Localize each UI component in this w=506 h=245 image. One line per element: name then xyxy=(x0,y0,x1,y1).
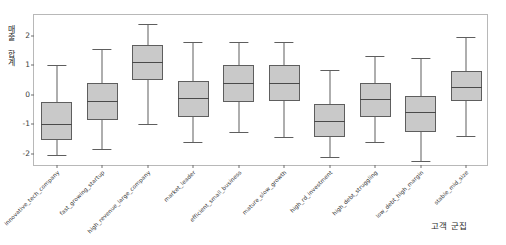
median-line xyxy=(178,98,209,99)
whisker-cap-low xyxy=(320,157,339,158)
whisker-cap-high xyxy=(411,58,430,59)
box-iqr xyxy=(405,96,436,131)
x-tick-label: high_rd_investment xyxy=(289,170,333,214)
median-line xyxy=(132,62,163,63)
whisker-cap-low xyxy=(47,155,66,156)
whisker-cap-high xyxy=(93,49,112,50)
x-tick-label: efficient_small_business xyxy=(189,170,242,223)
whisker-cap-low xyxy=(138,124,157,125)
x-axis-label: 고객 군집 xyxy=(431,219,467,231)
box-iqr xyxy=(178,81,209,116)
median-line xyxy=(87,101,118,102)
y-tick-label: 1 xyxy=(25,61,34,69)
x-tick-mark xyxy=(466,165,467,168)
median-line xyxy=(223,83,254,84)
median-line xyxy=(314,121,345,122)
median-line xyxy=(360,99,391,100)
whisker-cap-low xyxy=(275,137,294,138)
whisker-cap-low xyxy=(411,161,430,162)
boxplot-figure: 매출 합계 210-1-2 innovative_tech_companyfas… xyxy=(0,0,506,245)
x-tick-label: market_leader xyxy=(164,170,197,203)
whisker-cap-high xyxy=(184,42,203,43)
box-iqr xyxy=(451,71,482,101)
whisker-cap-low xyxy=(184,142,203,143)
x-tick-label: stable_mid_size xyxy=(434,170,470,206)
x-tick-mark xyxy=(375,165,376,168)
whisker-cap-low xyxy=(229,132,248,133)
y-tick-label: -1 xyxy=(23,120,34,128)
x-tick-mark xyxy=(147,165,148,168)
x-tick-label: mature_slow_growth xyxy=(242,170,288,216)
median-line xyxy=(269,83,300,84)
whisker-cap-high xyxy=(229,42,248,43)
box-iqr xyxy=(41,102,72,140)
x-tick-label: low_debt_high_margin xyxy=(375,170,425,220)
x-tick-mark xyxy=(56,165,57,168)
whisker-cap-high xyxy=(275,42,294,43)
x-tick-mark xyxy=(238,165,239,168)
x-tick-mark xyxy=(329,165,330,168)
y-axis-label: 매출 합계 xyxy=(3,14,17,76)
whisker-cap-low xyxy=(457,136,476,137)
plot-area: 210-1-2 innovative_tech_companyfast_grow… xyxy=(33,14,488,166)
x-tick-label: high_debt_struggling xyxy=(332,170,379,217)
whisker-cap-low xyxy=(366,142,385,143)
whisker-cap-high xyxy=(47,65,66,66)
whisker-cap-high xyxy=(138,24,157,25)
y-tick-label: 2 xyxy=(25,32,34,40)
whisker-cap-high xyxy=(457,37,476,38)
x-tick-label: innovative_tech_company xyxy=(4,170,61,227)
whisker-cap-high xyxy=(366,56,385,57)
median-line xyxy=(405,112,436,113)
y-tick-label: 0 xyxy=(25,91,34,99)
median-line xyxy=(451,87,482,88)
x-tick-label: fast_growing_startup xyxy=(59,170,106,217)
x-tick-mark xyxy=(193,165,194,168)
whisker-cap-high xyxy=(320,70,339,71)
x-tick-mark xyxy=(420,165,421,168)
x-tick-mark xyxy=(284,165,285,168)
x-tick-mark xyxy=(102,165,103,168)
whisker-cap-low xyxy=(93,149,112,150)
y-tick-label: -2 xyxy=(23,150,34,158)
median-line xyxy=(41,124,72,125)
